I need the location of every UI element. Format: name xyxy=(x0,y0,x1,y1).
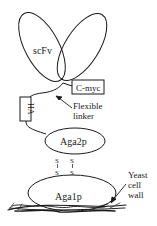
disulfide-bonds: S S S S xyxy=(55,157,74,177)
scfv-label: scFv xyxy=(33,45,52,56)
linker-arrow-icon xyxy=(56,96,72,108)
aga1p-label: Aga1p xyxy=(55,191,82,202)
ha-aga2p-link xyxy=(26,121,46,134)
aga2p-label: Aga2p xyxy=(60,136,87,147)
flexible-linker-line xyxy=(29,83,63,98)
linker-label: linker xyxy=(73,111,94,121)
cmyc-label: C-myc xyxy=(76,83,101,93)
wall-label: wall xyxy=(128,190,144,200)
scfv-domain xyxy=(9,5,116,88)
scfv-vl-lobe xyxy=(47,6,116,88)
yeast-label: Yeast xyxy=(128,170,148,180)
flexible-label: Flexible xyxy=(73,101,103,111)
diagram-canvas: scFv C-myc HA Flexible linker Aga2p S S … xyxy=(0,0,157,226)
ha-label: HA xyxy=(26,103,35,115)
cell-label: cell xyxy=(128,180,141,190)
sulfur-2-top: S xyxy=(70,157,74,165)
sulfur-2-bottom: S xyxy=(70,169,74,177)
sulfur-1-top: S xyxy=(55,157,59,165)
